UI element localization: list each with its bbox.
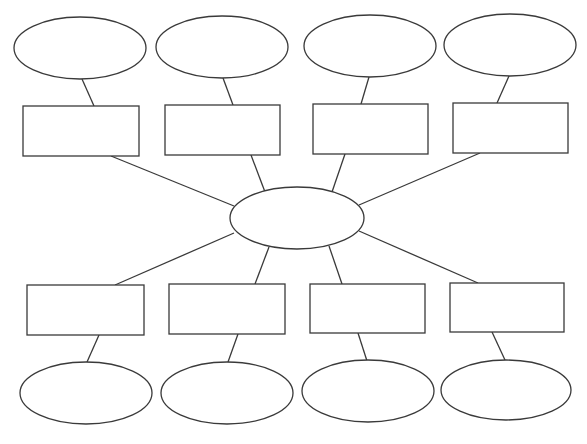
top-box-1-shape[interactable] <box>23 106 139 156</box>
top-ellipse-4[interactable] <box>444 14 576 76</box>
connector-tb1-center <box>111 156 234 206</box>
bottom-ellipse-4[interactable] <box>441 360 571 420</box>
bottom-ellipse-2-shape[interactable] <box>161 362 293 424</box>
connector-bb2-be2 <box>228 334 238 362</box>
connector-center-bb2 <box>255 247 269 284</box>
bottom-box-1[interactable] <box>27 285 144 335</box>
bottom-box-2-shape[interactable] <box>169 284 285 334</box>
connector-bb4-be4 <box>492 332 505 360</box>
connector-tb4-center <box>359 153 480 205</box>
top-ellipse-1[interactable] <box>14 17 146 79</box>
bottom-ellipse-1[interactable] <box>20 362 152 424</box>
top-box-4[interactable] <box>453 103 568 153</box>
bottom-box-1-shape[interactable] <box>27 285 144 335</box>
connector-bb3-be3 <box>358 333 367 361</box>
bottom-ellipse-2[interactable] <box>161 362 293 424</box>
center-ellipse-shape[interactable] <box>230 187 364 249</box>
bottom-ellipse-4-shape[interactable] <box>441 360 571 420</box>
bottom-box-3[interactable] <box>310 284 425 333</box>
top-ellipse-4-shape[interactable] <box>444 14 576 76</box>
concept-map-diagram <box>0 0 587 444</box>
connector-tb2-center <box>251 155 265 192</box>
bottom-box-4-shape[interactable] <box>450 283 564 332</box>
top-box-4-shape[interactable] <box>453 103 568 153</box>
bottom-ellipse-3[interactable] <box>302 360 434 422</box>
connector-bb1-be1 <box>87 335 99 362</box>
top-box-1[interactable] <box>23 106 139 156</box>
connector-center-bb3 <box>329 246 342 284</box>
top-box-2-shape[interactable] <box>165 105 280 155</box>
top-ellipse-3-shape[interactable] <box>304 15 436 77</box>
top-box-3[interactable] <box>313 104 428 154</box>
top-ellipse-3[interactable] <box>304 15 436 77</box>
top-ellipse-1-shape[interactable] <box>14 17 146 79</box>
bottom-box-2[interactable] <box>169 284 285 334</box>
top-ellipse-2[interactable] <box>156 16 288 78</box>
connector-tb3-center <box>332 154 345 192</box>
bottom-box-3-shape[interactable] <box>310 284 425 333</box>
bottom-box-4[interactable] <box>450 283 564 332</box>
connector-te3-tb3 <box>361 77 369 104</box>
top-box-2[interactable] <box>165 105 280 155</box>
connector-center-bb4 <box>359 231 478 283</box>
center-ellipse[interactable] <box>230 187 364 249</box>
connector-te4-tb4 <box>497 76 509 103</box>
connector-te1-tb1 <box>82 79 94 106</box>
top-ellipse-2-shape[interactable] <box>156 16 288 78</box>
connector-te2-tb2 <box>223 78 233 105</box>
bottom-ellipse-3-shape[interactable] <box>302 360 434 422</box>
connector-center-bb1 <box>115 233 234 285</box>
diagram-nodes <box>14 14 576 424</box>
bottom-ellipse-1-shape[interactable] <box>20 362 152 424</box>
top-box-3-shape[interactable] <box>313 104 428 154</box>
